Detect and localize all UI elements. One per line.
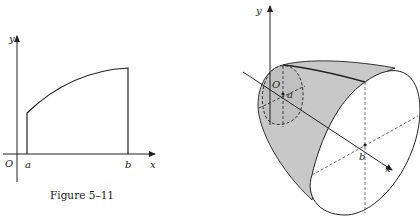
- y-axis-label-3d: y: [255, 5, 262, 16]
- origin-label-3d: O: [272, 79, 280, 90]
- figure-canvas: y x O a b Figure 5–11 y x O a b: [0, 0, 420, 224]
- b-label: b: [125, 159, 131, 170]
- solid-of-revolution-figure: y x O a b: [243, 5, 420, 215]
- y-axis-label: y: [8, 33, 15, 44]
- point-b: [363, 143, 366, 146]
- point-a: [281, 92, 284, 95]
- b-label-3d: b: [359, 151, 365, 162]
- x-axis-label-3d: x: [385, 163, 391, 174]
- figure-5-11: y x O a b Figure 5–11: [3, 33, 156, 201]
- x-axis-label: x: [150, 159, 156, 170]
- region-boundary: [27, 68, 128, 154]
- origin-label: O: [5, 158, 13, 169]
- a-label: a: [25, 159, 31, 170]
- a-label-3d: a: [287, 89, 293, 100]
- figure-caption: Figure 5–11: [50, 189, 114, 201]
